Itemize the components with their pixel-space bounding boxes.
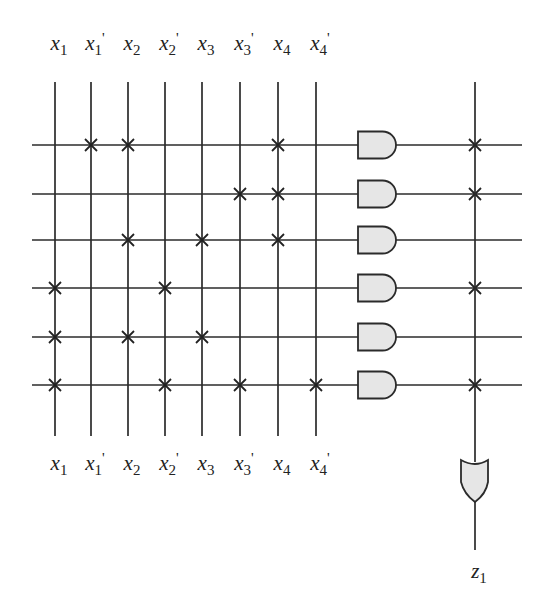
input-label-top-x3: x3 (197, 31, 215, 58)
input-label-bottom-x1p: x1' (84, 450, 105, 478)
and-gate-icon (358, 324, 396, 351)
input-label-top-x4p: x4' (309, 30, 330, 58)
input-label-bottom-x2: x2 (123, 451, 141, 478)
pla-diagram: x1x1'x2x2'x3x3'x4x4' x1x1'x2x2'x3x3'x4x4… (0, 0, 551, 603)
output-label-z1: z1 (470, 559, 487, 586)
and-gates (358, 132, 396, 399)
and-gate-icon (358, 181, 396, 208)
bottom-input-labels: x1x1'x2x2'x3x3'x4x4' (50, 450, 330, 478)
input-label-bottom-x4: x4 (273, 451, 291, 478)
product-term-lines (32, 145, 522, 385)
input-label-top-x4: x4 (273, 31, 291, 58)
and-gate-icon (358, 132, 396, 159)
input-label-bottom-x2p: x2' (158, 450, 179, 478)
or-gate-icon (461, 460, 488, 502)
input-label-top-x3p: x3' (233, 30, 254, 58)
input-label-top-x1: x1 (50, 31, 68, 58)
top-input-labels: x1x1'x2x2'x3x3'x4x4' (50, 30, 330, 58)
input-label-top-x1p: x1' (84, 30, 105, 58)
input-label-bottom-x3p: x3' (233, 450, 254, 478)
input-label-bottom-x4p: x4' (309, 450, 330, 478)
output-label: z1 (470, 559, 487, 586)
input-label-bottom-x1: x1 (50, 451, 68, 478)
and-gate-icon (358, 227, 396, 254)
input-label-top-x2p: x2' (158, 30, 179, 58)
input-label-top-x2: x2 (123, 31, 141, 58)
and-gate-icon (358, 275, 396, 302)
input-label-bottom-x3: x3 (197, 451, 215, 478)
or-section (461, 82, 488, 550)
and-gate-icon (358, 372, 396, 399)
input-lines (55, 82, 316, 436)
crosspoint-marks (49, 139, 481, 391)
